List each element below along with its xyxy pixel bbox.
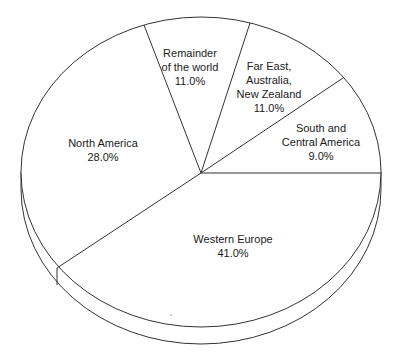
- label-value: 41.0%: [193, 246, 272, 260]
- label-text: North America: [68, 136, 138, 150]
- label-western-europe: Western Europe 41.0%: [193, 232, 272, 260]
- label-text: New Zealand: [237, 87, 302, 101]
- label-far-east: Far East, Australia, New Zealand 11.0%: [237, 59, 302, 115]
- label-text: Remainder: [162, 46, 219, 60]
- label-text: of the world: [162, 60, 219, 74]
- label-text: Central America: [282, 135, 360, 149]
- label-text: Australia,: [237, 73, 302, 87]
- label-value: 28.0%: [68, 150, 138, 164]
- label-value: 11.0%: [237, 101, 302, 115]
- label-text: Far East,: [237, 59, 302, 73]
- speck: [170, 314, 172, 316]
- label-value: 9.0%: [282, 149, 360, 163]
- label-text: South and: [282, 121, 360, 135]
- label-text: Western Europe: [193, 232, 272, 246]
- label-value: 11.0%: [162, 74, 219, 88]
- label-north-america: North America 28.0%: [68, 136, 138, 164]
- label-south-central: South and Central America 9.0%: [282, 121, 360, 163]
- label-remainder: Remainder of the world 11.0%: [162, 46, 219, 88]
